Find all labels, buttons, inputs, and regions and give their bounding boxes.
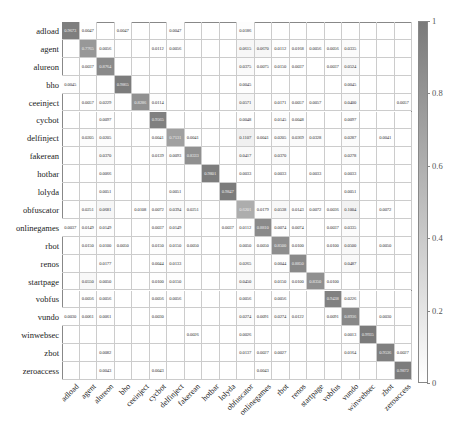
matrix-cell bbox=[202, 326, 220, 344]
colorbar-tick-label: 0.4 bbox=[432, 233, 443, 243]
matrix-cell: 0.0091 bbox=[325, 308, 343, 326]
colorbar-tick-label: 1 bbox=[432, 16, 436, 26]
matrix-cell: 0.0057 bbox=[290, 94, 308, 112]
matrix-cell bbox=[360, 273, 378, 291]
matrix-cell: 0.0050 bbox=[185, 237, 203, 255]
matrix-cell bbox=[150, 326, 168, 344]
matrix-cell: 0.0100 bbox=[325, 273, 343, 291]
matrix-cell: 0.8286 bbox=[132, 94, 150, 112]
matrix-cell bbox=[290, 147, 308, 165]
matrix-cell bbox=[115, 40, 133, 58]
matrix-cell: 0.0145 bbox=[272, 112, 290, 130]
matrix-cell: 0.0033 bbox=[272, 165, 290, 183]
matrix-cell: 0.0037 bbox=[220, 219, 238, 237]
matrix-cell: 0.0037 bbox=[325, 58, 343, 76]
matrix-cell bbox=[290, 22, 308, 40]
matrix-cell bbox=[360, 22, 378, 40]
matrix-cell: 0.0229 bbox=[97, 94, 115, 112]
matrix-cell bbox=[255, 326, 273, 344]
matrix-cell: 0.0045 bbox=[237, 76, 255, 94]
matrix-cell bbox=[185, 255, 203, 273]
matrix-cell: 0.0681 bbox=[97, 201, 115, 219]
matrix-cell bbox=[115, 344, 133, 362]
matrix-cell: 0.0179 bbox=[255, 201, 273, 219]
matrix-cell: 0.0226 bbox=[342, 291, 360, 309]
matrix-cell bbox=[360, 183, 378, 201]
matrix-cell bbox=[307, 219, 325, 237]
matrix-cell: 0.0037 bbox=[62, 219, 80, 237]
matrix-cell: 0.8850 bbox=[290, 255, 308, 273]
matrix-cell: 0.0044 bbox=[272, 255, 290, 273]
matrix-cell: 0.0133 bbox=[167, 255, 185, 273]
matrix-cell: 0.0041 bbox=[255, 129, 273, 147]
matrix-cell: 0.0417 bbox=[237, 147, 255, 165]
matrix-cell bbox=[132, 326, 150, 344]
matrix-cell: 0.0056 bbox=[325, 40, 343, 58]
matrix-cell bbox=[377, 291, 395, 309]
matrix-cell bbox=[360, 219, 378, 237]
matrix-cell: 0.0033 bbox=[237, 165, 255, 183]
matrix-cell bbox=[220, 344, 238, 362]
matrix-cell bbox=[237, 183, 255, 201]
x-axis-label: vobfus bbox=[321, 382, 343, 404]
matrix-cell: 0.0056 bbox=[80, 291, 98, 309]
matrix-cell: 0.0037 bbox=[80, 58, 98, 76]
matrix-cell: 0.0370 bbox=[97, 147, 115, 165]
matrix-cell bbox=[360, 237, 378, 255]
matrix-cell bbox=[80, 344, 98, 362]
matrix-cell bbox=[80, 76, 98, 94]
matrix-cell bbox=[202, 76, 220, 94]
matrix-cell bbox=[202, 255, 220, 273]
matrix-cell bbox=[97, 22, 115, 40]
matrix-cell bbox=[377, 22, 395, 40]
y-axis-label: bho bbox=[46, 80, 59, 90]
matrix-cell: 0.0056 bbox=[237, 291, 255, 309]
matrix-cell: 0.0033 bbox=[342, 165, 360, 183]
matrix-cell: 0.0027 bbox=[255, 344, 273, 362]
matrix-cell bbox=[325, 129, 343, 147]
matrix-cell bbox=[307, 112, 325, 130]
matrix-cell bbox=[115, 147, 133, 165]
matrix-cell bbox=[360, 362, 378, 380]
matrix-cell bbox=[220, 94, 238, 112]
matrix-cell bbox=[115, 201, 133, 219]
matrix-cell: 0.0150 bbox=[167, 237, 185, 255]
matrix-cell bbox=[220, 326, 238, 344]
matrix-cell: 0.0050 bbox=[237, 237, 255, 255]
matrix-cell: 0.0112 bbox=[272, 40, 290, 58]
matrix-cell bbox=[395, 308, 413, 326]
matrix-cell bbox=[325, 94, 343, 112]
matrix-cell bbox=[62, 291, 80, 309]
matrix-cell bbox=[62, 255, 80, 273]
matrix-cell bbox=[325, 76, 343, 94]
x-axis-label: rbot bbox=[275, 382, 290, 397]
matrix-cell: 0.0205 bbox=[97, 129, 115, 147]
matrix-cell bbox=[360, 201, 378, 219]
y-axis-label: vundo bbox=[38, 312, 59, 322]
matrix-cell: 0.0143 bbox=[290, 201, 308, 219]
matrix-cell bbox=[395, 40, 413, 58]
y-axis-label: renos bbox=[41, 259, 59, 269]
colorbar-tick-label: 0.2 bbox=[432, 306, 443, 316]
matrix-cell: 0.0045 bbox=[62, 76, 80, 94]
matrix-cell bbox=[307, 58, 325, 76]
matrix-cell bbox=[80, 112, 98, 130]
matrix-cell bbox=[202, 308, 220, 326]
matrix-cell bbox=[220, 362, 238, 380]
matrix-cell bbox=[255, 183, 273, 201]
matrix-cell bbox=[360, 291, 378, 309]
matrix-cell: 0.0328 bbox=[307, 129, 325, 147]
y-axis-label: alureon bbox=[34, 62, 60, 72]
matrix-cell bbox=[185, 112, 203, 130]
matrix-cell: 0.0571 bbox=[237, 94, 255, 112]
matrix-cell: 0.0050 bbox=[97, 273, 115, 291]
matrix-cell: 0.8350 bbox=[307, 273, 325, 291]
matrix-cell bbox=[255, 112, 273, 130]
matrix-cell bbox=[395, 219, 413, 237]
colorbar-tick-mark bbox=[427, 21, 430, 22]
matrix-cell: 0.0056 bbox=[167, 291, 185, 309]
matrix-cell bbox=[307, 237, 325, 255]
matrix-cell: 0.0500 bbox=[342, 237, 360, 255]
matrix-cell: 0.0072 bbox=[377, 201, 395, 219]
matrix-cell bbox=[377, 326, 395, 344]
